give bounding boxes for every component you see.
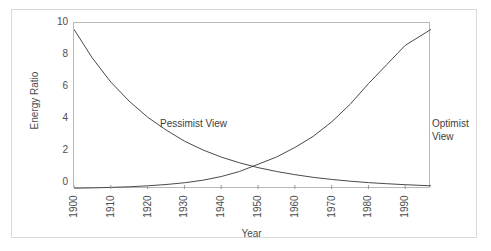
y-tick-label: 8 [42,49,68,59]
x-axis-title: Year [73,228,430,239]
chart-figure: Energy Ratio 10 8 6 4 2 0 Pessimist View… [0,0,491,251]
y-tick-label: 6 [42,81,68,91]
x-axis-ticks: 1900191019201930194019501960197019801990 [73,190,430,226]
y-tick-label: 4 [42,113,68,123]
y-tick-label: 0 [42,177,68,187]
y-axis-title: Energy Ratio [29,51,40,151]
annotation-optimist-view: Optimist View [432,117,469,143]
curve-pessimist [74,29,431,185]
y-axis-ticks: 10 8 6 4 2 0 [40,22,68,188]
y-tick-label: 10 [42,17,68,27]
plot-area: Pessimist View Optimist View [73,22,430,188]
plot-curves [74,23,431,189]
curve-optimist [74,29,431,188]
y-tick-label: 2 [42,145,68,155]
annotation-pessimist-view: Pessimist View [160,117,227,130]
